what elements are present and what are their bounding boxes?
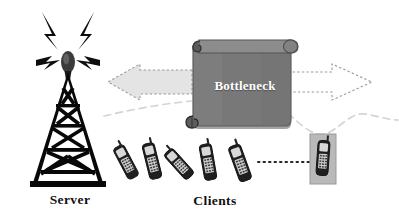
mobile-phone-5 xyxy=(226,138,253,183)
mobile-phone-1 xyxy=(110,139,140,180)
bottleneck-label: Bottleneck xyxy=(190,78,300,94)
server-label: Server xyxy=(0,192,140,208)
clients-label: Clients xyxy=(160,193,270,209)
mobile-phone-2 xyxy=(140,136,162,180)
mobile-phone-3 xyxy=(160,143,195,180)
wavy-dashed-line-left xyxy=(104,101,192,116)
arrow-right-outline xyxy=(288,64,372,100)
mobile-phone-4 xyxy=(198,138,217,181)
diagram-svg xyxy=(0,0,399,216)
client-phone-group xyxy=(110,134,336,184)
wavy-dashed-line-right xyxy=(288,113,398,134)
arrow-left-filled xyxy=(108,64,192,100)
diagram-canvas: Server Clients Bottleneck xyxy=(0,0,399,216)
radio-tower-icon xyxy=(30,12,106,187)
mobile-phone-6-boxed xyxy=(310,134,336,184)
